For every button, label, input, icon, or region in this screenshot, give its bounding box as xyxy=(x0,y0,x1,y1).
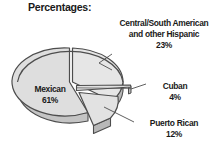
slice-value-puerto-rican: 12% xyxy=(140,128,208,139)
slice-value-central: 23% xyxy=(115,39,212,50)
slice-label-mexican: Mexican 61% xyxy=(27,83,74,105)
chart-canvas: Percentages: Central/South American xyxy=(0,0,221,161)
slice-value-mexican: 61% xyxy=(27,94,74,105)
slice-label-central-line1: Central/South American xyxy=(120,17,209,28)
slice-label-puerto-rican-name: Puerto Rican xyxy=(150,117,198,128)
slice-label-cuban-name: Cuban xyxy=(163,80,188,91)
slice-label-mexican-name: Mexican xyxy=(34,83,65,94)
leader-line-cuban xyxy=(131,84,146,89)
slice-label-central-line2: and other Hispanic xyxy=(129,28,199,39)
slice-label-puerto-rican: Puerto Rican 12% xyxy=(140,117,208,139)
slice-label-central-south-american: Central/South American and other Hispani… xyxy=(115,17,212,51)
slice-label-cuban: Cuban 4% xyxy=(151,80,200,102)
slice-value-cuban: 4% xyxy=(151,91,200,102)
